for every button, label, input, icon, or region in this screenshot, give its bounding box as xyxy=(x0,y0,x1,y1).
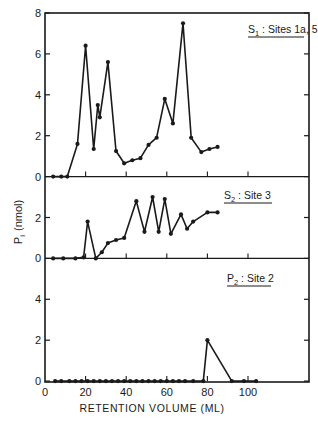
data-point xyxy=(53,379,57,383)
data-point xyxy=(163,97,167,101)
data-point xyxy=(73,379,77,383)
data-point xyxy=(140,379,144,383)
y-tick-label: 8 xyxy=(35,7,41,19)
x-tick-label: 60 xyxy=(161,386,173,398)
data-point xyxy=(215,210,219,214)
data-point xyxy=(114,149,118,153)
data-point xyxy=(81,255,85,259)
data-point xyxy=(100,250,104,254)
data-point xyxy=(169,232,173,236)
data-point xyxy=(150,195,154,199)
y-tick-label: 2 xyxy=(35,212,41,224)
x-tick-label: 40 xyxy=(120,386,132,398)
data-point xyxy=(134,379,138,383)
data-point xyxy=(51,175,55,179)
data-point xyxy=(65,175,69,179)
data-point xyxy=(177,379,181,383)
x-axis: 020406080100 xyxy=(42,386,257,398)
data-point xyxy=(157,230,161,234)
data-point xyxy=(106,60,110,64)
data-point xyxy=(98,115,102,119)
chart-panels: 02468S1 : Sites 1a, 5, 1b02S2 : Site 302… xyxy=(35,7,318,387)
panel-p2: 024P2 : Site 2 xyxy=(35,272,309,387)
x-tick-label: 0 xyxy=(42,386,48,398)
data-point xyxy=(215,145,219,149)
data-point xyxy=(163,197,167,201)
data-point xyxy=(104,379,108,383)
data-point xyxy=(191,379,195,383)
series-line xyxy=(55,340,256,381)
data-point xyxy=(61,256,65,260)
data-point xyxy=(86,219,90,223)
x-tick-label: 100 xyxy=(239,386,257,398)
y-tick-label: 2 xyxy=(35,130,41,142)
series-line xyxy=(53,197,217,258)
data-point xyxy=(199,150,203,154)
data-point xyxy=(122,236,126,240)
y-tick-label: 6 xyxy=(35,48,41,60)
data-point xyxy=(171,379,175,383)
data-point xyxy=(205,338,209,342)
data-point xyxy=(128,379,132,383)
data-point xyxy=(110,379,114,383)
data-point xyxy=(98,379,102,383)
y-axis-title: Pi(nmol) xyxy=(12,200,27,244)
data-point xyxy=(92,147,96,151)
data-point xyxy=(114,238,118,242)
data-point xyxy=(86,379,90,383)
data-point xyxy=(130,158,134,162)
data-point xyxy=(75,142,79,146)
x-tick-label: 20 xyxy=(79,386,91,398)
data-point xyxy=(179,212,183,216)
data-point xyxy=(84,44,88,48)
data-point xyxy=(205,210,209,214)
data-point xyxy=(51,256,55,260)
data-point xyxy=(189,136,193,140)
data-point xyxy=(183,379,187,383)
x-tick-label: 80 xyxy=(201,386,213,398)
data-point xyxy=(181,21,185,25)
data-point xyxy=(59,175,63,179)
y-tick-label: 0 xyxy=(35,375,41,387)
data-point xyxy=(92,379,96,383)
series-legend: S1 : Sites 1a, 5, 1b xyxy=(248,23,318,38)
y-tick-label: 2 xyxy=(35,334,41,346)
data-point xyxy=(94,256,98,260)
data-point xyxy=(201,379,205,383)
data-point xyxy=(153,379,157,383)
series-legend: S2 : Site 3 xyxy=(224,189,271,204)
panel-s2: 02S2 : Site 3 xyxy=(35,189,309,264)
data-point xyxy=(142,230,146,234)
data-point xyxy=(207,147,211,151)
data-point xyxy=(230,379,234,383)
data-point xyxy=(116,379,120,383)
y-tick-label: 4 xyxy=(35,89,41,101)
data-point xyxy=(73,256,77,260)
data-point xyxy=(134,199,138,203)
y-tick-label: 4 xyxy=(35,293,41,305)
data-point xyxy=(165,379,169,383)
data-point xyxy=(122,161,126,165)
series-legend: P2 : Site 2 xyxy=(227,272,274,287)
data-point xyxy=(79,379,83,383)
data-point xyxy=(159,379,163,383)
y-tick-label: 0 xyxy=(35,252,41,264)
data-point xyxy=(122,379,126,383)
y-axis-label: Pi(nmol) xyxy=(12,200,27,244)
y-tick-label: 0 xyxy=(35,171,41,183)
x-axis-label: RETENTION VOLUME (ML) xyxy=(79,402,224,414)
data-point xyxy=(96,103,100,107)
series-line xyxy=(53,23,217,176)
data-point xyxy=(138,156,142,160)
data-point xyxy=(67,379,71,383)
data-point xyxy=(254,379,258,383)
data-point xyxy=(146,379,150,383)
data-point xyxy=(59,379,63,383)
data-point xyxy=(191,219,195,223)
chart-figure: 02468S1 : Sites 1a, 5, 1b02S2 : Site 302… xyxy=(0,0,318,421)
data-point xyxy=(171,121,175,125)
data-point xyxy=(242,379,246,383)
panel-s1: 02468S1 : Sites 1a, 5, 1b xyxy=(35,7,318,183)
data-point xyxy=(155,136,159,140)
data-point xyxy=(106,241,110,245)
